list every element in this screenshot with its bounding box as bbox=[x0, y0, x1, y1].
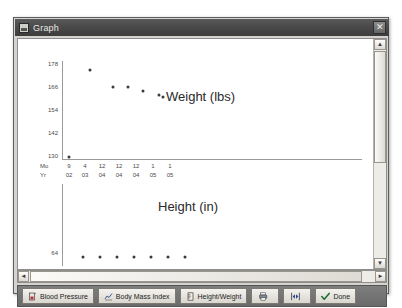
weight-point-4 bbox=[142, 90, 145, 93]
x-axis-row-label-year: Yr bbox=[40, 172, 46, 178]
height-point-1 bbox=[99, 256, 102, 259]
bmi-chart-icon bbox=[104, 292, 113, 301]
weight-point-0 bbox=[68, 156, 71, 159]
weight-ytick-0: 178 bbox=[36, 61, 58, 67]
app-root: Graph ✕ 178 166 154 142 130 bbox=[0, 0, 402, 308]
bottom-toolbar: Blood Pressure Body Mass Index Height/We… bbox=[17, 285, 387, 307]
horizontal-scrollbar[interactable]: ◄ ► bbox=[17, 270, 387, 283]
x-month-5: 1 bbox=[151, 163, 154, 169]
window-title: Graph bbox=[33, 23, 59, 33]
scroll-down-icon[interactable]: ▼ bbox=[374, 258, 386, 269]
height-y-axis bbox=[62, 184, 63, 266]
scroll-right-icon[interactable]: ► bbox=[375, 271, 386, 282]
done-label: Done bbox=[333, 293, 350, 300]
x-month-6: 1 bbox=[168, 163, 171, 169]
weight-point-6 bbox=[162, 96, 165, 99]
height-point-3 bbox=[133, 256, 136, 259]
weight-ytick-3: 142 bbox=[36, 130, 58, 136]
done-button[interactable]: Done bbox=[315, 288, 356, 304]
x-month-1: 4 bbox=[83, 163, 86, 169]
fit-width-icon bbox=[291, 292, 300, 301]
weight-point-5 bbox=[158, 94, 161, 97]
checkmark-icon bbox=[321, 292, 330, 301]
graph-window: Graph ✕ 178 166 154 142 130 bbox=[13, 17, 389, 294]
x-year-6: 05 bbox=[167, 172, 174, 178]
x-year-1: 03 bbox=[82, 172, 89, 178]
print-icon bbox=[259, 292, 268, 301]
vertical-scrollbar[interactable]: ▲ ▼ bbox=[373, 39, 386, 269]
weight-point-2 bbox=[112, 86, 115, 89]
scroll-up-icon[interactable]: ▲ bbox=[374, 39, 386, 50]
print-button[interactable] bbox=[251, 288, 279, 304]
x-month-3: 12 bbox=[116, 163, 123, 169]
x-year-4: 04 bbox=[133, 172, 140, 178]
body-mass-index-label: Body Mass Index bbox=[116, 293, 170, 300]
height-ytick-0: 64 bbox=[36, 250, 58, 256]
height-point-4 bbox=[150, 256, 153, 259]
x-axis-row-label-month: Mo bbox=[40, 163, 48, 169]
fit-width-button[interactable] bbox=[283, 288, 311, 304]
close-icon[interactable]: ✕ bbox=[373, 21, 386, 34]
blood-pressure-icon bbox=[28, 292, 37, 301]
scroll-left-icon[interactable]: ◄ bbox=[18, 271, 29, 282]
x-year-0: 02 bbox=[66, 172, 73, 178]
weight-x-axis bbox=[62, 159, 362, 160]
weight-ytick-1: 166 bbox=[36, 84, 58, 90]
height-series-label: Height (in) bbox=[158, 199, 218, 214]
chart-client-area: 178 166 154 142 130 Weight (lbs) Mo Yr 9… bbox=[17, 38, 387, 270]
height-point-0 bbox=[82, 256, 85, 259]
horizontal-scroll-thumb[interactable] bbox=[30, 271, 362, 282]
blood-pressure-button[interactable]: Blood Pressure bbox=[22, 288, 94, 304]
height-point-2 bbox=[116, 256, 119, 259]
height-weight-button[interactable]: Height/Weight bbox=[180, 288, 248, 304]
body-mass-index-button[interactable]: Body Mass Index bbox=[98, 288, 176, 304]
blood-pressure-label: Blood Pressure bbox=[40, 293, 88, 300]
x-year-5: 05 bbox=[150, 172, 157, 178]
height-weight-icon bbox=[186, 292, 195, 301]
height-weight-label: Height/Weight bbox=[198, 293, 242, 300]
weight-ytick-2: 154 bbox=[36, 107, 58, 113]
x-month-2: 12 bbox=[99, 163, 106, 169]
height-point-5 bbox=[167, 256, 170, 259]
x-year-2: 04 bbox=[99, 172, 106, 178]
chart-surface: 178 166 154 142 130 Weight (lbs) Mo Yr 9… bbox=[18, 39, 374, 269]
weight-y-axis bbox=[62, 61, 63, 159]
x-month-4: 12 bbox=[133, 163, 140, 169]
window-titlebar[interactable]: Graph ✕ bbox=[15, 19, 389, 36]
weight-ytick-4: 130 bbox=[36, 153, 58, 159]
x-year-3: 04 bbox=[116, 172, 123, 178]
graph-window-icon bbox=[19, 23, 29, 33]
x-month-0: 9 bbox=[67, 163, 70, 169]
weight-series-label: Weight (lbs) bbox=[166, 89, 235, 104]
vertical-scroll-thumb[interactable] bbox=[374, 51, 386, 163]
height-point-6 bbox=[184, 256, 187, 259]
weight-point-1 bbox=[89, 69, 92, 72]
weight-point-3 bbox=[127, 86, 130, 89]
